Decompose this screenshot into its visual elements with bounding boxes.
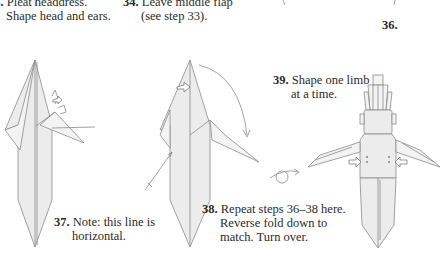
step-34-caption: 34. Leave middle flap (see step 33). [123, 0, 233, 23]
step-36-label: 36. [382, 18, 398, 33]
turn-over-icon [270, 169, 299, 183]
push-arrow-icon [349, 157, 361, 167]
step-38-caption: 38. Repeat steps 36–38 here. Reverse fol… [202, 202, 346, 244]
step-37-caption: 37. Note: this line is horizontal. [54, 215, 155, 243]
step-39-caption: 39. Shape one limb at a time. [273, 73, 370, 101]
push-arrow-icon [395, 157, 407, 167]
step-33-caption: 33. Pleat headdress. Shape head and ears… [0, 0, 111, 23]
